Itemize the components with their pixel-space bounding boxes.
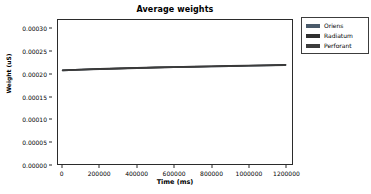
y-tick-label: 0.00005 (22, 139, 47, 146)
y-tick-mark (49, 28, 52, 29)
legend-label: Radiatum (324, 31, 353, 40)
y-tick-mark (49, 96, 52, 97)
chart-legend: OriensRadiatumPerforant (301, 17, 369, 54)
x-tick-label: 800000 (200, 170, 223, 177)
x-axis-label: Time (ms) (57, 178, 293, 186)
y-tick-mark (49, 50, 52, 51)
legend-label: Oriens (324, 21, 343, 30)
y-tick-mark (49, 142, 52, 143)
x-tick-mark (174, 165, 175, 168)
legend-color-swatch (306, 44, 320, 48)
series-lines (58, 20, 292, 164)
y-tick-label: 0.00015 (22, 93, 47, 100)
legend-item[interactable]: Oriens (306, 21, 365, 30)
y-tick-label: 0.00000 (22, 162, 47, 169)
x-tick-label: 1000000 (236, 170, 263, 177)
y-tick-label: 0.00030 (22, 25, 47, 32)
x-tick-mark (211, 165, 212, 168)
x-axis-ticks: 020000040000060000080000010000001200000 (57, 165, 293, 179)
legend-color-swatch (306, 24, 320, 28)
x-tick-mark (136, 165, 137, 168)
chart-figure: Average weights Weight (uS) 0.000000.000… (0, 0, 371, 194)
x-tick-mark (99, 165, 100, 168)
x-tick-label: 600000 (163, 170, 186, 177)
x-tick-label: 0 (60, 170, 64, 177)
x-tick-label: 400000 (125, 170, 148, 177)
x-tick-mark (248, 165, 249, 168)
plot-area (57, 19, 293, 165)
y-tick-label: 0.00025 (22, 47, 47, 54)
x-tick-mark (61, 165, 62, 168)
legend-item[interactable]: Perforant (306, 41, 365, 50)
legend-label: Perforant (324, 41, 352, 50)
series-line (63, 65, 286, 70)
y-tick-label: 0.00020 (22, 70, 47, 77)
y-tick-mark (49, 73, 52, 74)
chart-title: Average weights (57, 5, 293, 14)
y-axis-ticks: 0.000000.000050.000100.000150.000200.000… (0, 19, 52, 165)
y-tick-mark (49, 119, 52, 120)
y-tick-mark (49, 165, 52, 166)
legend-color-swatch (306, 34, 320, 38)
y-tick-label: 0.00010 (22, 116, 47, 123)
x-tick-mark (286, 165, 287, 168)
x-tick-label: 1200000 (273, 170, 300, 177)
x-tick-label: 200000 (88, 170, 111, 177)
legend-item[interactable]: Radiatum (306, 31, 365, 40)
